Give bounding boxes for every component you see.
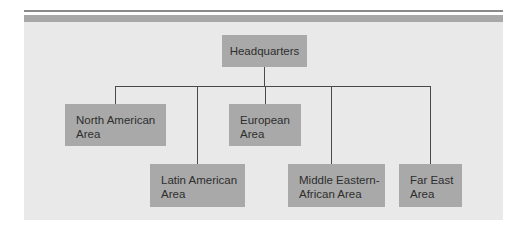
connector-middle-eastern-african: [331, 86, 332, 164]
headquarters-box: Headquarters: [222, 35, 307, 67]
latin-american-area-box: Latin American Area: [150, 164, 245, 207]
connector-european: [265, 86, 266, 104]
far-east-label-line2: Area: [410, 187, 452, 201]
european-area-box: European Area: [229, 104, 301, 146]
north-american-label-line2: Area: [76, 127, 156, 141]
european-label-line2: Area: [240, 127, 291, 141]
latin-american-label-line1: Latin American: [161, 173, 235, 187]
connector-horizontal-bus: [115, 86, 431, 87]
far-east-label-line1: Far East: [410, 173, 452, 187]
european-label-line1: European: [240, 113, 291, 127]
middle-eastern-african-label-line1: Middle Eastern-: [299, 173, 375, 187]
north-american-label-line1: North American: [76, 113, 156, 127]
middle-eastern-african-label-line2: African Area: [299, 187, 375, 201]
top-rule-thin: [24, 10, 503, 12]
connector-hq-down: [264, 67, 265, 86]
headquarters-label: Headquarters: [230, 44, 300, 58]
connector-latin-american: [197, 86, 198, 164]
middle-eastern-african-area-box: Middle Eastern- African Area: [288, 164, 385, 207]
connector-far-east: [430, 86, 431, 164]
connector-north-american: [115, 86, 116, 104]
far-east-area-box: Far East Area: [399, 164, 462, 207]
latin-american-label-line2: Area: [161, 187, 235, 201]
top-rule-thick: [24, 15, 503, 22]
north-american-area-box: North American Area: [65, 104, 166, 146]
